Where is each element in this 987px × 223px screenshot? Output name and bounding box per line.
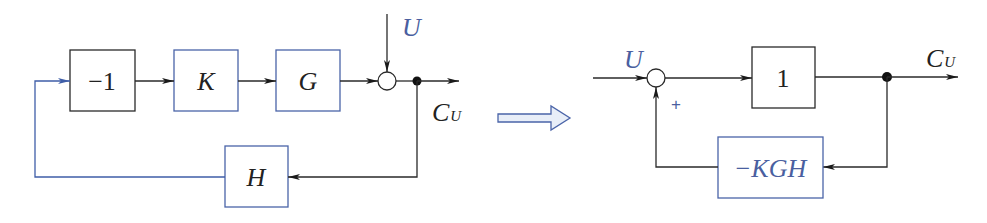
block-K: K: [174, 50, 238, 111]
block-H: H: [225, 146, 288, 207]
input-label-U-right: U: [624, 45, 645, 74]
output-label-Cu-right: CU: [926, 44, 956, 73]
wire-node-to-neg-KGH: [823, 77, 887, 167]
wire-neg-KGH-to-sum: [656, 87, 718, 167]
block-K-label: K: [196, 67, 216, 96]
block-neg-KGH: −KGH: [718, 137, 823, 198]
input-label-U: U: [402, 13, 423, 42]
summing-junction-right: [647, 69, 665, 87]
hollow-right-arrow-icon: [498, 106, 570, 130]
sum-sign-plus: +: [671, 95, 681, 114]
block-G-label: G: [299, 67, 318, 96]
block-one-label: 1: [777, 64, 790, 93]
block-G: G: [276, 50, 340, 111]
block-neg-one: −1: [70, 50, 135, 111]
block-neg-one-label: −1: [88, 67, 116, 96]
block-one: 1: [752, 47, 815, 108]
summing-junction-left: [378, 72, 396, 90]
right-diagram: U + 1 CU −KGH: [593, 44, 958, 198]
left-diagram: −1 K G H U CU: [35, 13, 462, 207]
output-label-Cu: CU: [432, 98, 462, 127]
block-neg-KGH-label: −KGH: [734, 154, 808, 183]
block-diagram-canvas: −1 K G H U CU: [0, 0, 987, 223]
equivalence-arrow: [498, 106, 570, 130]
block-H-label: H: [246, 163, 267, 192]
